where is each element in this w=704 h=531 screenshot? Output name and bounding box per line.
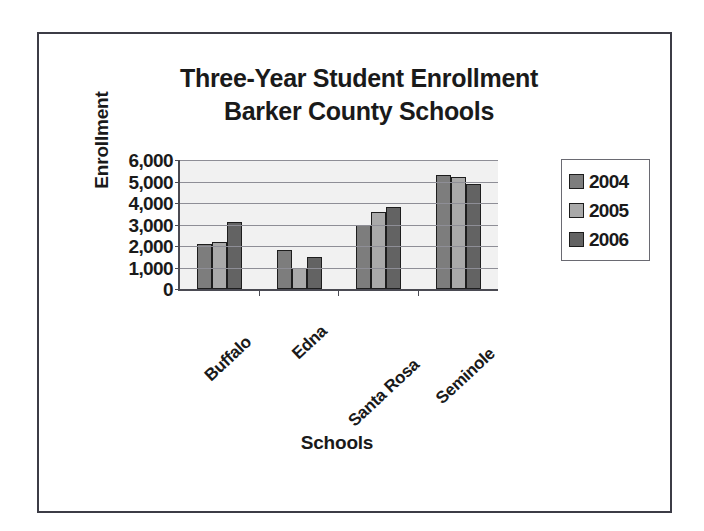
y-axis-tick bbox=[175, 203, 180, 204]
bar[interactable] bbox=[386, 207, 401, 289]
y-axis-tick bbox=[175, 268, 180, 269]
bar[interactable] bbox=[371, 212, 386, 289]
chart-title-line-2: Barker County Schools bbox=[109, 95, 609, 128]
y-axis-tick bbox=[175, 225, 180, 226]
plot-area bbox=[178, 160, 498, 291]
gridline bbox=[180, 246, 498, 247]
x-category-label: Buffalo bbox=[201, 333, 256, 386]
y-axis-tick bbox=[175, 289, 180, 290]
y-axis-tick bbox=[175, 246, 180, 247]
bar[interactable] bbox=[356, 225, 371, 290]
bar[interactable] bbox=[307, 257, 322, 289]
x-axis-category-labels: BuffaloEdnaSanta RosaSeminole bbox=[178, 292, 496, 382]
bar[interactable] bbox=[227, 222, 242, 289]
bar[interactable] bbox=[466, 184, 481, 289]
x-category-label: Edna bbox=[288, 322, 331, 364]
chart-title: Three-Year Student Enrollment Barker Cou… bbox=[109, 62, 609, 128]
legend-item[interactable]: 2004 bbox=[569, 172, 643, 191]
legend-item[interactable]: 2006 bbox=[569, 230, 643, 249]
gridline bbox=[180, 182, 498, 183]
y-tick-label: 1,000 bbox=[128, 258, 173, 277]
chart-legend: 200420052006 bbox=[561, 159, 650, 261]
x-category-label: Santa Rosa bbox=[345, 355, 424, 431]
legend-label: 2006 bbox=[589, 230, 628, 249]
bar[interactable] bbox=[451, 177, 466, 289]
chart-frame: Three-Year Student Enrollment Barker Cou… bbox=[37, 32, 672, 513]
gridline bbox=[180, 268, 498, 269]
y-axis-tick-labels: 6,0005,0004,0003,0002,0001,0000 bbox=[97, 150, 173, 286]
chart-title-line-1: Three-Year Student Enrollment bbox=[109, 62, 609, 95]
bar[interactable] bbox=[277, 250, 292, 289]
y-tick-label: 5,000 bbox=[128, 172, 173, 191]
y-tick-label: 0 bbox=[163, 280, 173, 299]
bar[interactable] bbox=[292, 268, 307, 290]
legend-item[interactable]: 2005 bbox=[569, 201, 643, 220]
x-category-label: Seminole bbox=[432, 344, 499, 409]
y-tick-label: 2,000 bbox=[128, 237, 173, 256]
y-tick-label: 4,000 bbox=[128, 194, 173, 213]
gridline bbox=[180, 203, 498, 204]
y-axis-tick bbox=[175, 160, 180, 161]
legend-color-swatch bbox=[569, 174, 584, 189]
x-axis-title: Schools bbox=[178, 432, 496, 454]
legend-label: 2004 bbox=[589, 172, 628, 191]
bar[interactable] bbox=[212, 242, 227, 289]
bar[interactable] bbox=[436, 175, 451, 289]
y-tick-label: 6,000 bbox=[128, 151, 173, 170]
legend-label: 2005 bbox=[589, 201, 628, 220]
y-axis-tick bbox=[175, 182, 180, 183]
bar[interactable] bbox=[197, 244, 212, 289]
legend-color-swatch bbox=[569, 203, 584, 218]
y-tick-label: 3,000 bbox=[128, 215, 173, 234]
legend-color-swatch bbox=[569, 232, 584, 247]
gridline bbox=[180, 160, 498, 161]
gridline bbox=[180, 225, 498, 226]
